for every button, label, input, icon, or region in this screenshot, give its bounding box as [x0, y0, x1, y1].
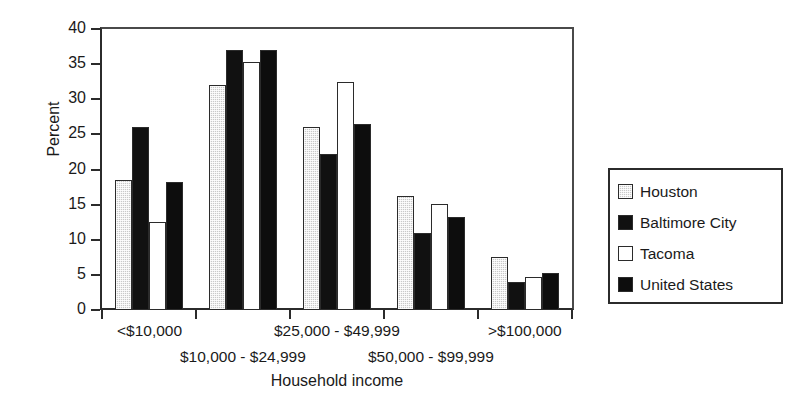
legend-swatch-tacoma-icon: [618, 246, 633, 261]
legend-item: Houston: [618, 176, 773, 207]
y-axis-tick-label: 5: [48, 266, 86, 282]
x-axis-tick-mark: [383, 310, 385, 319]
y-axis-tick-mark: [91, 239, 100, 241]
y-axis-tick-label: 30: [48, 90, 86, 106]
bar-baltimore-city-2: [226, 50, 243, 310]
bar-baltimore-city-4: [414, 233, 431, 310]
legend: Houston Baltimore City Tacoma United Sta…: [608, 168, 783, 304]
bar-tacoma-4: [431, 204, 448, 310]
x-axis-tick-mark: [289, 310, 291, 319]
bar-baltimore-city-1: [132, 127, 149, 310]
y-axis-tick-label: 10: [48, 231, 86, 247]
bar-tacoma-1: [149, 222, 166, 310]
y-axis-tick-label: 20: [48, 161, 86, 177]
y-axis-tick-mark: [91, 28, 100, 30]
y-axis-tick-mark: [91, 133, 100, 135]
legend-item: United States: [618, 269, 773, 300]
x-axis-category-label: <$10,000: [117, 322, 182, 340]
bar-united-states-3: [354, 124, 371, 310]
bar-baltimore-city-5: [508, 282, 525, 310]
x-axis-title: Household income: [100, 372, 574, 390]
y-axis-tick-label: 25: [48, 125, 86, 141]
bar-houston-4: [397, 196, 414, 310]
bar-tacoma-5: [525, 277, 542, 310]
x-axis-category-label: $10,000 - $24,999: [180, 348, 306, 366]
bar-houston-1: [115, 180, 132, 310]
y-axis-tick-mark: [91, 204, 100, 206]
bar-united-states-5: [542, 273, 559, 310]
legend-label-tacoma: Tacoma: [640, 245, 694, 263]
y-axis-tick-mark: [91, 309, 100, 311]
x-axis-category-label: $25,000 - $49,999: [274, 322, 400, 340]
bars-layer: [102, 29, 572, 310]
x-axis-tick-mark: [571, 310, 573, 319]
legend-label-baltimore-city: Baltimore City: [640, 214, 736, 232]
chart-figure: Percent 0510152025303540 <$10,000$10,000…: [0, 0, 797, 406]
legend-swatch-houston-icon: [618, 184, 633, 199]
legend-swatch-united-states-icon: [618, 277, 633, 292]
legend-item: Baltimore City: [618, 207, 773, 238]
bar-tacoma-3: [337, 82, 354, 310]
y-axis-tick-mark: [91, 98, 100, 100]
bar-houston-5: [491, 257, 508, 310]
legend-label-houston: Houston: [640, 183, 698, 201]
y-axis-tick-label: 40: [48, 20, 86, 36]
y-axis-tick-mark: [91, 169, 100, 171]
y-axis-tick-mark: [91, 63, 100, 65]
x-axis-category-label: $50,000 - $99,999: [368, 348, 494, 366]
bar-baltimore-city-3: [320, 154, 337, 310]
bar-houston-3: [303, 127, 320, 310]
bar-houston-2: [209, 85, 226, 310]
legend-label-united-states: United States: [640, 276, 733, 294]
y-axis-tick-mark: [91, 274, 100, 276]
y-axis-tick-label: 15: [48, 196, 86, 212]
legend-swatch-baltimore-city-icon: [618, 215, 633, 230]
y-axis-tick-label: 35: [48, 55, 86, 71]
bar-united-states-2: [260, 50, 277, 310]
bar-united-states-4: [448, 217, 465, 310]
x-axis-tick-mark: [477, 310, 479, 319]
legend-item: Tacoma: [618, 238, 773, 269]
x-axis-category-label: >$100,000: [488, 322, 562, 340]
bar-tacoma-2: [243, 62, 260, 310]
x-axis-tick-mark: [195, 310, 197, 319]
y-axis-tick-label: 0: [48, 301, 86, 317]
x-axis-tick-mark: [101, 310, 103, 319]
bar-united-states-1: [166, 182, 183, 310]
